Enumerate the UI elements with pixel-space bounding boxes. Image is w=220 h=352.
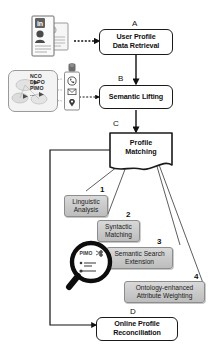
step-2-line1: Syntactic bbox=[105, 223, 132, 231]
step-3-line1: Semantic Search bbox=[114, 250, 164, 258]
step-number-4: 4 bbox=[194, 272, 198, 281]
smartphone-icon bbox=[62, 62, 82, 112]
stage-c-line2: Matching bbox=[125, 148, 157, 157]
ontology-label-more: ... bbox=[30, 91, 54, 97]
stage-letter-c: C bbox=[113, 119, 119, 128]
stage-a-line2: Data Retrieval bbox=[113, 42, 160, 51]
step-syntactic-matching[interactable]: Syntactic Matching bbox=[97, 220, 140, 242]
stage-profile-matching[interactable]: Profile Matching bbox=[110, 134, 172, 162]
connector-c-to-step3 bbox=[156, 163, 180, 245]
step-4-line1: Ontology-enhanced bbox=[136, 284, 194, 292]
contact-avatar-icon bbox=[69, 63, 76, 71]
step-1-line2: Analysis bbox=[74, 206, 99, 214]
stage-letter-d: D bbox=[130, 307, 136, 316]
diagram-canvas: in NCO DLPO PIMO ... bbox=[0, 0, 220, 352]
stage-d-line2: Reconciliation bbox=[113, 329, 161, 338]
social-profile-documents-icon: in bbox=[26, 12, 74, 64]
svg-text:PIMO: PIMO bbox=[80, 250, 93, 256]
step-number-1: 1 bbox=[100, 185, 104, 194]
step-number-3: 3 bbox=[157, 237, 161, 246]
stage-letter-a: A bbox=[132, 19, 137, 28]
envelope-icon bbox=[68, 89, 76, 95]
ontology-label-list: NCO DLPO PIMO ... bbox=[30, 73, 54, 97]
stage-semantic-lifting[interactable]: Semantic Lifting bbox=[99, 85, 173, 109]
step-3-line2: Extension bbox=[125, 258, 154, 266]
step-1-line1: Linguistic bbox=[72, 198, 100, 206]
stage-online-profile-reconciliation[interactable]: Online Profile Reconciliation bbox=[96, 317, 178, 341]
step-ontology-enhanced-attribute-weighting[interactable]: Ontology-enhanced Attribute Weighting bbox=[124, 281, 205, 303]
svg-text:in: in bbox=[37, 20, 43, 27]
step-number-2: 2 bbox=[126, 210, 130, 219]
step-linguistic-analysis[interactable]: Linguistic Analysis bbox=[64, 195, 108, 217]
stage-letter-b: B bbox=[118, 74, 123, 83]
magnifying-glass-icon: PIMO bbox=[62, 240, 118, 296]
stage-user-profile-data-retrieval[interactable]: User Profile Data Retrieval bbox=[99, 29, 173, 55]
stage-b-line1: Semantic Lifting bbox=[109, 93, 163, 102]
step-4-line2: Attribute Weighting bbox=[137, 292, 193, 300]
step-2-line2: Matching bbox=[105, 231, 132, 239]
